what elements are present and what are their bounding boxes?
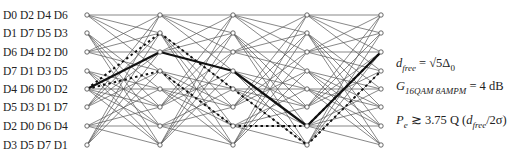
trellis-node <box>379 31 383 35</box>
trellis-node <box>85 50 89 54</box>
trellis-node <box>158 87 162 91</box>
eq-symbol: P <box>396 113 404 127</box>
trellis-node <box>85 143 89 147</box>
trellis-node <box>158 50 162 54</box>
trellis-branch <box>307 15 381 145</box>
trellis-node <box>85 31 89 35</box>
trellis-node <box>379 124 383 128</box>
trellis-branch <box>307 33 381 52</box>
eq-sub: free <box>472 120 486 130</box>
trellis-node <box>231 87 235 91</box>
trellis-node <box>85 69 89 73</box>
trellis-branch <box>87 52 160 89</box>
trellis-node <box>85 105 89 109</box>
trellis-branch <box>87 15 160 145</box>
trellis-node <box>158 143 162 147</box>
trellis-branch <box>233 15 307 107</box>
trellis-node <box>231 13 235 17</box>
pe-equation: Pe ≳ 3.75 Q (dfree/2σ) <box>396 112 507 130</box>
trellis-branch <box>87 15 160 33</box>
gain-equation: G16QAM 8AMPM = 4 dB <box>396 79 504 96</box>
trellis-node <box>231 105 235 109</box>
trellis-node <box>305 50 309 54</box>
trellis-branch <box>233 15 307 33</box>
eq-rhs: = √5Δ <box>416 56 450 70</box>
trellis-branch <box>160 15 233 33</box>
trellis-branch <box>307 89 381 145</box>
trellis-node <box>379 50 383 54</box>
trellis-node <box>158 13 162 17</box>
trellis-node <box>158 31 162 35</box>
eq-sub: free <box>402 63 416 73</box>
trellis-node <box>379 105 383 109</box>
eq-rhs: /2σ) <box>486 113 507 127</box>
dfree-equation: dfree = √5Δ0 <box>396 56 455 73</box>
trellis-node <box>85 124 89 128</box>
trellis-branch <box>87 89 160 145</box>
trellis-node <box>379 13 383 17</box>
trellis-node <box>379 87 383 91</box>
trellis-branch <box>307 15 381 107</box>
trellis-branch <box>87 15 160 71</box>
trellis-node <box>305 143 309 147</box>
trellis-node <box>305 69 309 73</box>
trellis-node <box>379 143 383 147</box>
trellis-branch <box>233 33 307 52</box>
trellis-node <box>305 105 309 109</box>
trellis-node <box>231 143 235 147</box>
trellis-branch <box>160 52 233 71</box>
trellis-branch <box>307 15 381 33</box>
trellis-branch <box>307 126 381 145</box>
trellis-node <box>231 31 235 35</box>
trellis-branch <box>233 15 307 71</box>
trellis-node <box>158 69 162 73</box>
trellis-branch <box>87 126 160 145</box>
trellis-node <box>158 105 162 109</box>
eq-rhs: = 4 dB <box>466 79 503 93</box>
trellis-node <box>231 50 235 54</box>
trellis-branch <box>160 126 233 145</box>
trellis-node <box>85 13 89 17</box>
eq-sub: 16QAM 8AMPM <box>405 86 466 96</box>
trellis-node <box>379 69 383 73</box>
trellis-node <box>231 69 235 73</box>
eq-symbol: G <box>396 79 405 93</box>
eq-sub: 0 <box>450 63 455 73</box>
trellis-node <box>305 87 309 91</box>
trellis-node <box>85 87 89 91</box>
trellis-node <box>305 31 309 35</box>
trellis-branch <box>160 107 233 126</box>
trellis-branch <box>87 107 160 126</box>
trellis-node <box>231 124 235 128</box>
trellis-branch <box>307 107 381 126</box>
trellis-node <box>158 124 162 128</box>
trellis-node <box>305 124 309 128</box>
eq-rhs: ≳ 3.75 Q ( <box>408 113 467 127</box>
trellis-branch <box>160 33 233 52</box>
trellis-node <box>305 13 309 17</box>
